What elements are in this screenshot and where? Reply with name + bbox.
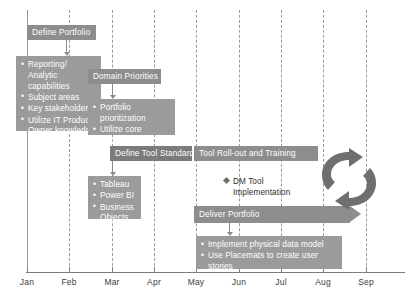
details-deliver-portfolio: Implement physical data model Use Placem… [196, 236, 342, 269]
gridline-jun [239, 10, 241, 271]
cycle-arrows-icon [316, 148, 382, 214]
connector-domain-priorities [112, 84, 113, 96]
milestone-dm-tool-implementation[interactable]: DM Tool Implementation [224, 176, 290, 198]
gridline-may [196, 10, 198, 271]
bullet-item: Power BI [93, 191, 136, 202]
bar-domain-priorities[interactable]: Domain Priorities [88, 69, 161, 84]
diamond-icon [223, 177, 230, 184]
milestone-label: DM Tool Implementation [233, 176, 290, 198]
gridline-jan [27, 10, 29, 271]
details-domain-priorities: Portfolio prioritization Utilize core wo… [88, 99, 175, 135]
month-label-aug: Aug [315, 277, 331, 287]
bullet-item: Subject areas [21, 93, 96, 104]
gridline-sep [366, 10, 368, 271]
bar-define-portfolio[interactable]: Define Portfolio [27, 25, 96, 40]
month-label-apr: Apr [147, 277, 161, 287]
axis-tick [27, 267, 28, 273]
bar-tool-rollout-and-training[interactable]: Tool Roll-out and Training [194, 146, 318, 161]
bullet-item: Portfolio prioritization [93, 103, 170, 125]
connector-deliver-portfolio [229, 223, 230, 233]
axis-tick [154, 267, 155, 273]
month-label-mar: Mar [104, 277, 119, 287]
axis-tick [112, 267, 113, 273]
month-label-feb: Feb [61, 277, 76, 287]
connector-define-portfolio [66, 40, 67, 53]
bullet-item: Business Objects [93, 203, 136, 225]
gridline-jul [281, 10, 283, 271]
bar-define-tool-standards[interactable]: Define Tool Standards [110, 146, 192, 161]
connector-define-tool-standards [112, 161, 113, 173]
bullet-item: Utilize IT Product Owner knowledge [21, 116, 96, 138]
bullet-item: Tableau [93, 180, 136, 191]
bullet-item: Utilize core working group [93, 125, 170, 147]
month-label-jun: Jun [232, 277, 246, 287]
roadmap-diagram: Define Portfolio Reporting/ Analytic cap… [0, 0, 415, 299]
bullet-item: Use Placemats to create user stories [201, 251, 337, 273]
details-define-tool-standards: Tableau Power BI Business Objects [88, 176, 141, 219]
bullet-item: Implement physical data model [201, 240, 337, 251]
gridline-aug [323, 10, 325, 271]
axis-tick [366, 267, 367, 273]
gridline-feb [69, 10, 71, 271]
bullet-item: Reporting/ Analytic capabilities [21, 60, 96, 92]
bullet-item: Key stakeholders [21, 104, 96, 115]
axis-tick [69, 267, 70, 273]
month-label-jan: Jan [20, 277, 34, 287]
month-label-jul: Jul [275, 277, 286, 287]
month-label-may: May [188, 277, 205, 287]
month-label-sep: Sep [358, 277, 374, 287]
